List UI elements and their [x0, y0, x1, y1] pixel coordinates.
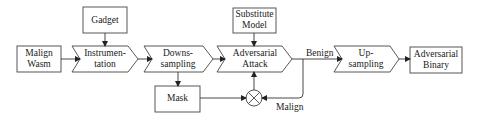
mask-label: Mask: [155, 93, 200, 104]
gadget-text: Gadget: [83, 15, 127, 26]
upsampling-label: Up- sampling: [340, 48, 392, 70]
downsampling-line1: Downs-: [150, 48, 206, 59]
instrumentation-label: Instrumen- tation: [78, 48, 132, 70]
downsampling-line2: sampling: [150, 59, 206, 70]
upsampling-line1: Up-: [340, 48, 392, 59]
benign-edge-label: Benign: [306, 48, 333, 59]
combine-operator-icon: [246, 90, 262, 106]
upsampling-line2: sampling: [340, 59, 392, 70]
malign-edge-label: Malign: [276, 102, 303, 113]
adversarial-binary-label: Adversarial Binary: [408, 49, 464, 71]
malign-wasm-line2: Wasm: [17, 59, 61, 70]
substitute-model-line1: Substitute: [230, 9, 279, 20]
substitute-model-label: Substitute Model: [230, 9, 279, 31]
adversarial-binary-line1: Adversarial: [408, 49, 464, 60]
adversarial-attack-line1: Adversarial: [224, 48, 286, 59]
malign-wasm-label: Malign Wasm: [17, 48, 61, 70]
mask-text: Mask: [155, 93, 200, 104]
downsampling-label: Downs- sampling: [150, 48, 206, 70]
adversarial-attack-line2: Attack: [224, 59, 286, 70]
malign-wasm-line1: Malign: [17, 48, 61, 59]
instrumentation-line2: tation: [78, 59, 132, 70]
adversarial-attack-label: Adversarial Attack: [224, 48, 286, 70]
adversarial-binary-line2: Binary: [408, 60, 464, 71]
substitute-model-line2: Model: [230, 20, 279, 31]
gadget-label: Gadget: [83, 15, 127, 26]
instrumentation-line1: Instrumen-: [78, 48, 132, 59]
